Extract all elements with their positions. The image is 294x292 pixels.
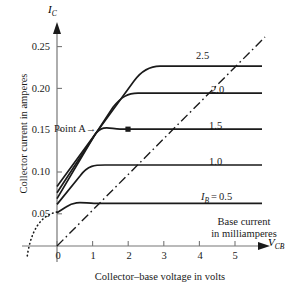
base-current-note-line1: Base current bbox=[196, 216, 292, 228]
point-a-text: Point A bbox=[54, 123, 86, 134]
x-axis-ticks bbox=[57, 241, 235, 246]
curve-label-2-0: 2.0 bbox=[211, 84, 224, 95]
x-tick-label-3: 3 bbox=[158, 250, 170, 261]
x-tick-label-2: 2 bbox=[123, 250, 135, 261]
y-axis-symbol: IC bbox=[48, 3, 57, 18]
x-tick-label-5: 5 bbox=[229, 250, 241, 261]
point-a-arrow-icon: → bbox=[86, 123, 97, 134]
x-tick-label-1: 1 bbox=[87, 250, 99, 261]
curve-label-1-0: 1.0 bbox=[209, 156, 222, 167]
point-a-marker bbox=[125, 127, 130, 132]
curve-label-2-5: 2.5 bbox=[196, 50, 209, 61]
point-a-annotation: Point A→ bbox=[54, 123, 96, 134]
load-line bbox=[57, 37, 265, 246]
x-tick-label-0: 0 bbox=[52, 250, 64, 261]
y-axis-arrowhead bbox=[53, 22, 61, 34]
base-current-note-line2: in milliamperes bbox=[196, 228, 292, 240]
base-current-note: Base current in milliamperes bbox=[196, 216, 292, 240]
y-axis-title: Collector current in amperes bbox=[18, 49, 29, 219]
curve-label-ib-0-5: IB=0.5 bbox=[201, 191, 232, 205]
x-axis-title: Collector–base voltage in volts bbox=[60, 271, 260, 282]
x-tick-label-4: 4 bbox=[194, 250, 206, 261]
curve-ib-1-5 bbox=[57, 128, 262, 199]
transistor-characteristic-chart: IC VCB 0.25 0.20 0.15 0.10 0.05 0 1 2 3 … bbox=[0, 0, 294, 292]
curve-label-1-5: 1.5 bbox=[209, 120, 222, 131]
